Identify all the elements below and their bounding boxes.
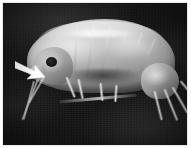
specimen-pereopod [114,85,118,102]
micrograph-plate [2,2,188,146]
specimen-dorsal-highlight [63,30,139,37]
arrow-icon [15,59,49,81]
figure-root: Grayscale micrograph of an amphipod crus… [0,0,191,148]
specimen-uropod [179,80,188,99]
specimen-urosome [141,63,179,99]
specimen-ventral-edge [59,94,137,104]
